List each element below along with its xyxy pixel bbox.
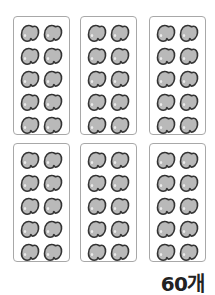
bean-grid: [86, 22, 131, 136]
bean-icon: [86, 91, 108, 113]
bean-icon: [109, 195, 131, 217]
bean-grid: [155, 22, 200, 136]
bean-icon: [86, 195, 108, 217]
bean-icon: [86, 45, 108, 67]
bean-icon: [109, 91, 131, 113]
bean-icon: [42, 114, 64, 136]
bean-icon: [155, 218, 177, 240]
bean-icon: [19, 218, 41, 240]
bean-icon: [109, 45, 131, 67]
bean-tray: [80, 143, 137, 262]
bean-icon: [19, 45, 41, 67]
bean-icon: [42, 45, 64, 67]
bean-icon: [86, 172, 108, 194]
bean-grid: [19, 22, 64, 136]
bean-icon: [109, 68, 131, 90]
bean-icon: [178, 241, 200, 263]
bean-icon: [42, 91, 64, 113]
bean-icon: [19, 241, 41, 263]
bean-icon: [86, 218, 108, 240]
bean-icon: [109, 149, 131, 171]
bean-icon: [109, 22, 131, 44]
bean-icon: [155, 241, 177, 263]
bean-icon: [155, 91, 177, 113]
bean-icon: [109, 218, 131, 240]
bean-icon: [86, 241, 108, 263]
bean-icon: [155, 114, 177, 136]
bean-icon: [19, 149, 41, 171]
bean-grid: [86, 149, 131, 263]
bean-icon: [109, 114, 131, 136]
total-count-label: 60개: [161, 268, 205, 295]
bean-icon: [178, 114, 200, 136]
bean-icon: [86, 114, 108, 136]
bean-icon: [42, 22, 64, 44]
bean-icon: [19, 22, 41, 44]
bean-icon: [178, 218, 200, 240]
bean-icon: [155, 149, 177, 171]
bean-icon: [19, 114, 41, 136]
bean-icon: [86, 68, 108, 90]
bean-icon: [155, 22, 177, 44]
bean-tray: [80, 16, 137, 135]
bean-icon: [42, 195, 64, 217]
bean-icon: [42, 172, 64, 194]
bean-tray: [149, 143, 206, 262]
bean-tray: [13, 16, 70, 135]
bean-icon: [42, 149, 64, 171]
bean-icon: [155, 45, 177, 67]
bean-icon: [19, 195, 41, 217]
bean-icon: [178, 149, 200, 171]
bean-icon: [178, 45, 200, 67]
bean-icon: [19, 172, 41, 194]
bean-icon: [178, 68, 200, 90]
bean-icon: [19, 68, 41, 90]
bean-tray: [149, 16, 206, 135]
bean-icon: [109, 172, 131, 194]
bean-icon: [178, 172, 200, 194]
bean-icon: [42, 218, 64, 240]
bean-grid: [19, 149, 64, 263]
bean-icon: [155, 195, 177, 217]
bean-icon: [178, 22, 200, 44]
bean-icon: [155, 172, 177, 194]
bean-icon: [178, 195, 200, 217]
bean-icon: [109, 241, 131, 263]
bean-icon: [19, 91, 41, 113]
bean-icon: [42, 68, 64, 90]
bean-grid: [155, 149, 200, 263]
bean-icon: [42, 241, 64, 263]
bean-icon: [86, 149, 108, 171]
bean-icon: [155, 68, 177, 90]
bean-tray: [13, 143, 70, 262]
bean-icon: [178, 91, 200, 113]
bean-icon: [86, 22, 108, 44]
